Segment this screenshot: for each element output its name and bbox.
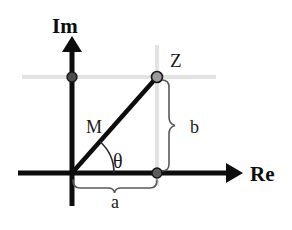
angle-arc bbox=[100, 142, 114, 174]
real-component-label: a bbox=[111, 192, 119, 212]
point-z-label: Z bbox=[170, 50, 182, 71]
magnitude-label: M bbox=[86, 117, 102, 137]
diagram-canvas: Im Re Z M θ a b bbox=[0, 0, 292, 230]
imaginary-axis-label: Im bbox=[52, 14, 78, 38]
angle-theta-label: θ bbox=[113, 150, 123, 172]
imaginary-component-label: b bbox=[190, 117, 199, 137]
complex-plane-figure: Im Re Z M θ a b bbox=[0, 0, 292, 230]
brace-b bbox=[162, 80, 175, 171]
real-axis-label: Re bbox=[250, 162, 275, 186]
arrow-right-icon bbox=[226, 163, 243, 183]
imaginary-projection-point bbox=[67, 72, 77, 82]
point-z-marker bbox=[152, 72, 163, 83]
real-projection-point bbox=[152, 168, 162, 178]
arrow-up-icon bbox=[62, 36, 82, 52]
